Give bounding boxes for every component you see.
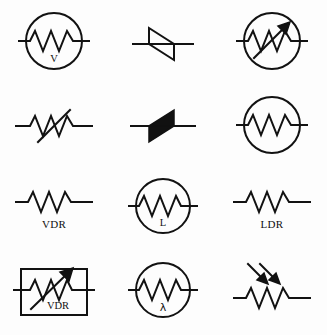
glyph-resistor-circle-plain	[218, 84, 327, 168]
symbol-cell-variable-resistor-circle-arrow	[218, 0, 327, 84]
symbol-cell-vdr-boxed-arrow: VDR	[0, 252, 109, 335]
zigzag-resistor-icon	[129, 196, 197, 216]
symbol-cell-resistor-circle-plain	[218, 84, 327, 168]
zigzag-resistor-icon	[234, 288, 310, 308]
inner-label-l: L	[160, 217, 166, 228]
label-ldr: LDR	[261, 218, 284, 230]
triangle-lower-outline-icon	[149, 44, 174, 60]
symbol-sheet: V	[0, 0, 327, 335]
zigzag-resistor-icon	[14, 280, 94, 300]
glyph-vdr-boxed-arrow: VDR	[0, 252, 109, 335]
symbol-cell-ldr-light-arrows	[218, 252, 327, 335]
glyph-variable-resistor-slash	[0, 84, 109, 168]
glyph-diac-filled	[109, 84, 218, 168]
inner-label-lambda: λ	[160, 301, 167, 314]
glyph-ldr-plain: LDR	[218, 168, 327, 252]
glyph-vdr-plain: VDR	[0, 168, 109, 252]
triangle-upper-filled-icon	[149, 110, 174, 126]
slash-line-icon	[38, 110, 70, 142]
triangle-upper-outline-icon	[149, 28, 174, 44]
zigzag-resistor-icon	[16, 192, 92, 212]
zigzag-resistor-icon	[19, 31, 89, 51]
symbol-cell-ldr-circle-lambda: λ	[109, 252, 218, 335]
symbol-cell-ldr-plain: LDR	[218, 168, 327, 252]
light-arrow-1-icon	[248, 264, 268, 284]
glyph-zener-diode-outline	[109, 0, 218, 84]
zigzag-resistor-icon	[129, 280, 197, 300]
arrow-diagonal-icon	[254, 22, 290, 58]
zigzag-resistor-icon	[237, 115, 307, 135]
symbol-cell-vdr-plain: VDR	[0, 168, 109, 252]
triangle-lower-filled-icon	[149, 126, 174, 142]
glyph-voltage-dependent-resistor-circle: V	[0, 0, 109, 84]
symbol-cell-variable-resistor-slash	[0, 84, 109, 168]
glyph-ldr-circle-l: L	[109, 168, 218, 252]
glyph-ldr-circle-lambda: λ	[109, 252, 218, 335]
label-vdr: VDR	[42, 218, 66, 230]
glyph-ldr-light-arrows	[218, 252, 327, 335]
symbol-cell-ldr-circle-l: L	[109, 168, 218, 252]
symbol-cell-voltage-dependent-resistor-circle: V	[0, 0, 109, 84]
inner-label-vdr: VDR	[47, 300, 69, 311]
glyph-variable-resistor-circle-arrow	[218, 0, 327, 84]
inner-label-v: V	[50, 53, 58, 64]
zigzag-resistor-icon	[234, 192, 310, 212]
symbol-cell-diac-filled	[109, 84, 218, 168]
symbol-cell-zener-diode-outline	[109, 0, 218, 84]
